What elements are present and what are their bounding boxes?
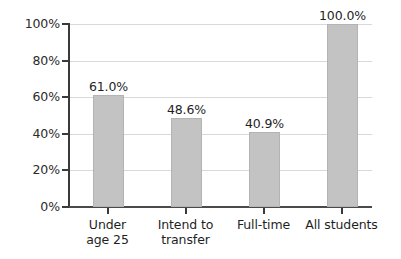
x-tick-mark-1 <box>185 208 187 214</box>
x-axis-label-under-age-25: Under age 25 <box>73 217 142 247</box>
bar-full-time[interactable] <box>249 132 280 207</box>
x-tick-mark-3 <box>341 208 343 214</box>
bar-value-full-time: 40.9% <box>234 118 295 131</box>
y-tick-mark-20 <box>62 169 69 171</box>
bar-value-under-age-25: 61.0% <box>78 81 139 94</box>
bar-all-students[interactable] <box>327 24 358 207</box>
bar-value-all-students: 100.0% <box>310 10 375 23</box>
x-axis-label-intend-to-transfer: Intend to transfer <box>149 217 222 247</box>
y-tick-label-100: 100% <box>4 18 60 31</box>
x-axis-label-all-students: All students <box>302 217 381 232</box>
y-axis-labels: 100% 80% 60% 40% 20% 0% <box>0 0 60 259</box>
y-tick-mark-60 <box>62 96 69 98</box>
x-tick-mark-0 <box>107 208 109 214</box>
y-tick-mark-0 <box>62 206 69 208</box>
y-tick-label-60: 60% <box>4 91 60 104</box>
bar-intend-to-transfer[interactable] <box>171 118 202 207</box>
bar-under-age-25[interactable] <box>93 95 124 207</box>
y-tick-mark-40 <box>62 133 69 135</box>
y-tick-label-80: 80% <box>4 55 60 68</box>
y-axis-line <box>68 23 70 208</box>
x-axis-label-full-time: Full-time <box>228 217 299 232</box>
y-tick-label-40: 40% <box>4 128 60 141</box>
x-tick-mark-2 <box>263 208 265 214</box>
bar-value-intend-to-transfer: 48.6% <box>156 104 217 117</box>
y-tick-mark-100 <box>62 23 69 25</box>
bar-chart: 100% 80% 60% 40% 20% 0% 61.0% 48.6% 40.9… <box>0 0 401 259</box>
y-tick-label-0: 0% <box>4 201 60 214</box>
y-tick-label-20: 20% <box>4 164 60 177</box>
y-tick-mark-80 <box>62 60 69 62</box>
